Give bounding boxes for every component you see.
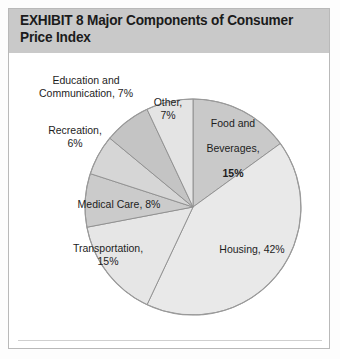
pie-chart-svg: [0, 0, 340, 359]
slice-label-transportation: Transportation, 15%: [52, 242, 164, 267]
slice-label-education: Education and Communication, 7%: [18, 74, 154, 99]
slice-label-medical-care: Medical Care, 8%: [64, 198, 174, 211]
slice-label-recreation: Recreation, 6%: [18, 124, 132, 149]
food-label-line1: Food and: [211, 117, 255, 129]
exhibit-figure: EXHIBIT 8 Major Components of Consumer P…: [0, 0, 340, 359]
pie-chart: Education and Communication, 7% Recreati…: [0, 0, 340, 359]
food-label-value: 15%: [222, 167, 243, 179]
bottom-divider: [18, 340, 322, 341]
food-label-line2: Beverages,: [206, 142, 259, 154]
slice-label-housing: Housing, 42%: [196, 243, 308, 256]
slice-label-other: Other, 7%: [140, 96, 196, 121]
slice-label-food-and-beverages: Food and Beverages, 15%: [196, 104, 270, 179]
